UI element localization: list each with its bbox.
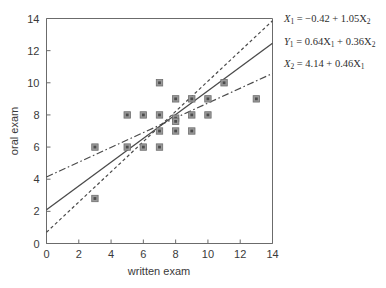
- eq1-rhs-text: = −0.42 + 1.05X: [294, 13, 367, 24]
- data-point: [140, 144, 146, 150]
- data-point-core: [142, 114, 145, 117]
- regression-line-bisector-line: [47, 43, 273, 210]
- data-point-core: [207, 114, 210, 117]
- eq2-lhs-subscript: 1: [290, 40, 294, 49]
- data-point: [156, 144, 162, 150]
- eq3-rhs-subscript: 1: [361, 62, 365, 71]
- data-point-core: [126, 146, 129, 149]
- data-point-core: [142, 146, 145, 149]
- scatter-plot-figure: 02468101214 02468101214 written exam ora…: [0, 0, 386, 288]
- data-points-group: [92, 80, 260, 202]
- eq2-term2-subscript: 2: [372, 40, 376, 49]
- y-tick-label: 12: [27, 45, 39, 57]
- data-point-core: [207, 97, 210, 100]
- data-point: [156, 128, 162, 134]
- regression-lines-group: [47, 21, 273, 233]
- data-point-core: [174, 130, 177, 133]
- data-point: [189, 96, 195, 102]
- equation-line-2: Y1 = 0.64X1 + 0.36X2: [284, 37, 386, 48]
- data-point-core: [174, 120, 177, 123]
- data-point: [205, 112, 211, 118]
- data-point: [92, 144, 98, 150]
- regression-line-x2-on-x1-regression: [47, 73, 273, 176]
- x-tick-label: 10: [202, 248, 214, 260]
- data-point-core: [190, 130, 193, 133]
- data-point: [124, 144, 130, 150]
- y-tick-label: 8: [33, 109, 39, 121]
- y-tick-label: 2: [33, 205, 39, 217]
- x-axis-title: written exam: [127, 265, 190, 277]
- data-point-core: [174, 97, 177, 100]
- data-point: [156, 80, 162, 86]
- data-point-core: [223, 81, 226, 84]
- data-point-core: [158, 81, 161, 84]
- data-point-core: [255, 97, 258, 100]
- data-point-core: [158, 130, 161, 133]
- y-axis-ticks: 02468101214: [27, 13, 50, 250]
- data-point: [189, 112, 195, 118]
- data-point-core: [158, 114, 161, 117]
- x-tick-label: 4: [108, 248, 114, 260]
- data-point-core: [126, 114, 129, 117]
- x-tick-label: 0: [43, 248, 49, 260]
- data-point-core: [94, 146, 97, 149]
- data-point: [172, 96, 178, 102]
- data-point: [156, 112, 162, 118]
- equation-line-1: X1 = −0.42 + 1.05X2: [284, 14, 386, 25]
- x-tick-label: 8: [173, 248, 179, 260]
- eq1-lhs-subscript: 1: [290, 17, 294, 26]
- y-tick-label: 6: [33, 141, 39, 153]
- equation-line-3: X2 = 4.14 + 0.46X1: [284, 59, 386, 70]
- equation-annotations: X1 = −0.42 + 1.05X2 Y1 = 0.64X1 + 0.36X2…: [284, 14, 386, 82]
- x-tick-label: 2: [76, 248, 82, 260]
- data-point-core: [190, 114, 193, 117]
- eq2-term1-subscript: 1: [331, 40, 335, 49]
- eq2-term1-text: = 0.64X: [294, 36, 331, 47]
- data-point: [189, 128, 195, 134]
- eq3-rhs-text: = 4.14 + 0.46X: [294, 58, 361, 69]
- x-tick-label: 14: [266, 248, 278, 260]
- eq2-term2-text: + 0.36X: [334, 36, 371, 47]
- y-tick-label: 14: [27, 13, 39, 25]
- y-tick-label: 10: [27, 77, 39, 89]
- data-point-core: [158, 146, 161, 149]
- data-point: [172, 128, 178, 134]
- data-point-core: [190, 97, 193, 100]
- data-point: [124, 112, 130, 118]
- y-axis-title: oral exam: [8, 107, 20, 155]
- data-point: [172, 118, 178, 124]
- y-tick-label: 0: [33, 238, 39, 250]
- x-tick-label: 6: [140, 248, 146, 260]
- data-point: [140, 112, 146, 118]
- data-point: [92, 195, 98, 201]
- data-point: [221, 80, 227, 86]
- data-point-core: [94, 197, 97, 200]
- x-axis-ticks: 02468101214: [43, 240, 278, 260]
- eq3-lhs-subscript: 2: [290, 62, 294, 71]
- x-tick-label: 12: [234, 248, 246, 260]
- y-tick-label: 4: [33, 173, 39, 185]
- data-point: [253, 96, 259, 102]
- data-point: [205, 96, 211, 102]
- eq1-rhs-subscript: 2: [367, 17, 371, 26]
- eq2-lhs-symbol: Y: [284, 36, 290, 47]
